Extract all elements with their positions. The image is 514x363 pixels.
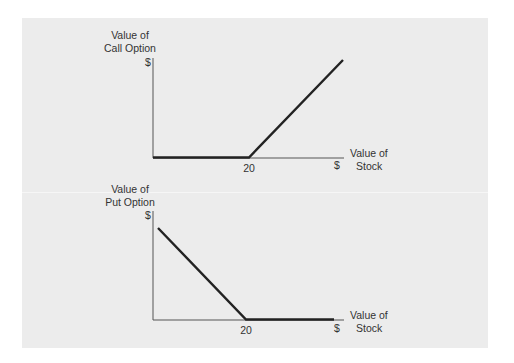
put-ylabel-line1: Value of	[111, 183, 149, 195]
put-x-tick-strike: 20	[240, 324, 252, 336]
call-ylabel-line1: Value of	[111, 29, 149, 41]
call-ylabel-unit: $	[145, 56, 151, 68]
put-payoff-line	[158, 228, 334, 320]
put-xlabel-line2: Stock	[356, 322, 383, 334]
call-payoff-line	[153, 60, 343, 158]
call-xlabel-unit: $	[334, 159, 340, 171]
put-ylabel-line2: Put Option	[105, 196, 155, 208]
put-option-chart: Value of Put Option $ 20 $ Value of Stoc…	[105, 183, 388, 336]
put-xlabel-line1: Value of	[350, 309, 388, 321]
call-x-tick-strike: 20	[243, 162, 255, 174]
put-ylabel-unit: $	[145, 209, 151, 221]
call-xlabel-line1: Value of	[350, 147, 388, 159]
put-xlabel-unit: $	[334, 322, 340, 334]
call-option-chart: Value of Call Option $ 20 $ Value of Sto…	[104, 29, 388, 174]
charts-canvas: Value of Call Option $ 20 $ Value of Sto…	[0, 0, 514, 363]
call-xlabel-line2: Stock	[356, 160, 383, 172]
call-ylabel-line2: Call Option	[104, 42, 156, 54]
